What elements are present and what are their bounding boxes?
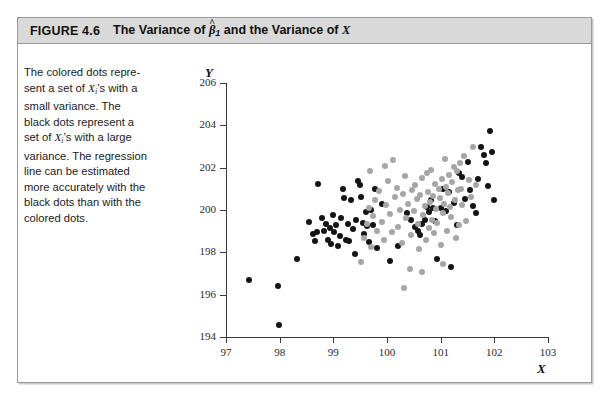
scatter-point xyxy=(417,232,423,238)
caption-line-7: line can be estimated xyxy=(24,165,130,177)
scatter-point xyxy=(370,213,376,219)
scatter-point xyxy=(428,167,434,173)
scatter-point xyxy=(453,235,459,241)
scatter-point xyxy=(436,186,442,192)
scatter-point xyxy=(456,222,462,228)
scatter-point xyxy=(397,207,403,213)
scatter-point xyxy=(461,153,467,159)
caption-line-10: colored dots. xyxy=(24,212,88,224)
scatter-point xyxy=(394,185,400,191)
scatter-point xyxy=(390,157,396,163)
scatter-point xyxy=(444,228,450,234)
scatter-point xyxy=(338,215,344,221)
scatter-point xyxy=(358,259,364,265)
figure-box: FIGURE 4.6 The Variance of ^β1 and the V… xyxy=(17,17,592,383)
y-tick-mark xyxy=(220,125,226,126)
scatter-point xyxy=(446,172,452,178)
y-axis-line xyxy=(226,83,227,337)
caption-line-5b: ’s with a large xyxy=(64,131,132,143)
scatter-point xyxy=(434,220,440,226)
scatter-point xyxy=(376,188,382,194)
scatter-plot: Y X 194196198200202204206 97989910010110… xyxy=(180,65,580,385)
scatter-point xyxy=(481,152,487,158)
x-tick-label: 101 xyxy=(421,346,461,358)
scatter-point xyxy=(364,221,370,227)
scatter-point xyxy=(330,212,336,218)
x-tick-label: 103 xyxy=(528,346,568,358)
scatter-point xyxy=(485,183,491,189)
scatter-point xyxy=(399,240,405,246)
scatter-point xyxy=(382,163,388,169)
scatter-point xyxy=(379,219,385,225)
scatter-point xyxy=(314,229,320,235)
x-tick-label: 100 xyxy=(367,346,407,358)
scatter-point xyxy=(358,194,364,200)
x-tick-mark xyxy=(548,337,549,343)
y-tick-label: 200 xyxy=(180,203,216,215)
y-tick-label: 198 xyxy=(180,245,216,257)
scatter-point xyxy=(449,179,455,185)
x-tick-label: 98 xyxy=(260,346,300,358)
scatter-point xyxy=(387,258,393,264)
scatter-point xyxy=(489,149,495,155)
scatter-point xyxy=(276,322,282,328)
x-tick-mark xyxy=(280,337,281,343)
scatter-point xyxy=(335,243,341,249)
scatter-point xyxy=(407,266,413,272)
scatter-point xyxy=(473,210,479,216)
scatter-point xyxy=(275,283,281,289)
scatter-point xyxy=(408,232,414,238)
figure-caption: The colored dots repre- sent a set of Xi… xyxy=(24,65,176,226)
y-tick-label: 202 xyxy=(180,161,216,173)
figure-title-prefix: The Variance of xyxy=(113,23,209,37)
scatter-point xyxy=(405,201,411,207)
x-tick-mark xyxy=(494,337,495,343)
scatter-point xyxy=(419,175,425,181)
scatter-point xyxy=(392,194,398,200)
scatter-point xyxy=(395,224,401,230)
x-tick-label: 102 xyxy=(474,346,514,358)
scatter-point xyxy=(454,168,460,174)
scatter-point xyxy=(315,181,321,187)
scatter-point xyxy=(440,261,446,267)
y-tick-mark xyxy=(220,252,226,253)
y-tick-mark xyxy=(220,210,226,211)
scatter-point xyxy=(470,144,476,150)
scatter-point xyxy=(434,256,440,262)
scatter-point xyxy=(337,233,343,239)
scatter-point xyxy=(328,241,334,247)
caption-line-6: variance. The regression xyxy=(24,150,147,162)
scatter-point xyxy=(448,214,454,220)
scatter-point xyxy=(448,264,454,270)
scatter-point xyxy=(427,199,433,205)
scatter-point xyxy=(415,221,421,227)
scatter-point xyxy=(457,160,463,166)
x-axis-title: X xyxy=(537,361,546,377)
y-tick-label: 196 xyxy=(180,288,216,300)
scatter-point xyxy=(383,202,389,208)
scatter-point xyxy=(385,178,391,184)
scatter-point xyxy=(400,191,406,197)
scatter-point xyxy=(348,197,354,203)
scatter-point xyxy=(402,173,408,179)
scatter-point xyxy=(411,208,417,214)
scatter-point xyxy=(463,218,469,224)
scatter-point xyxy=(433,206,439,212)
y-tick-mark xyxy=(220,295,226,296)
page-top-margin xyxy=(0,0,610,14)
caption-line-2b: ’s with a xyxy=(97,82,137,94)
scatter-point xyxy=(381,237,387,243)
scatter-point xyxy=(367,168,373,174)
scatter-point xyxy=(441,201,447,207)
scatter-point xyxy=(409,187,415,193)
x-tick-mark xyxy=(441,337,442,343)
scatter-point xyxy=(447,204,453,210)
scatter-point xyxy=(483,160,489,166)
scatter-point xyxy=(346,238,352,244)
scatter-point xyxy=(366,205,372,211)
figure-number: FIGURE 4.6 xyxy=(30,24,100,38)
caption-x-symbol-1: X xyxy=(88,82,95,94)
x-tick-label: 97 xyxy=(206,346,246,358)
scatter-point xyxy=(465,159,471,165)
scatter-point xyxy=(350,226,356,232)
